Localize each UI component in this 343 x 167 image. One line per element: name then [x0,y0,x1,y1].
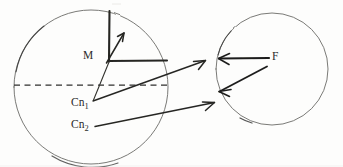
hand-drawn-diagram-canvas: M Cn1 Cn2 F [0,0,343,167]
contact2-force-arrow [95,102,215,127]
diagram-vector-layer [0,0,343,167]
label-contact-1: Cn1 [71,97,89,109]
right-body-circle [216,13,328,125]
label-contact-2: Cn2 [71,119,89,131]
label-contact-2-base: Cn [71,118,84,130]
label-contact-2-subscript: 2 [84,123,88,133]
contact1-radius-line [94,62,110,100]
force-left-arrow [219,54,270,65]
contact1-force-arrow [93,61,206,102]
label-contact-1-subscript: 1 [84,101,88,111]
label-moment: M [83,50,93,62]
force-diagonal-arrow [219,67,267,97]
left-body-circle [14,10,168,167]
label-contact-1-base: Cn [71,96,84,108]
label-force: F [272,51,278,63]
